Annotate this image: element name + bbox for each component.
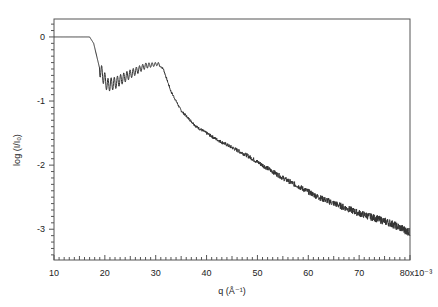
x-tick-label: 70 [354, 268, 364, 278]
y-tick-label: 0 [40, 32, 45, 42]
y-tick-label: -3 [37, 224, 45, 234]
chart: 0-1-2-3 1020304050607080x10⁻³ log (I/I₀)… [0, 0, 438, 307]
y-axis: 0-1-2-3 [37, 24, 54, 255]
x-tick-label: 50 [252, 268, 262, 278]
y-axis-title: log (I/I₀) [12, 134, 22, 166]
x-tick-label: 60 [303, 268, 313, 278]
x-tick-label: 10 [49, 268, 59, 278]
x-axis-title: q (Å⁻¹) [218, 286, 246, 296]
x-tick-label: 40 [202, 268, 212, 278]
x-tick-label: 30 [151, 268, 161, 278]
x-tick-label: 80x10⁻³ [400, 268, 433, 278]
plot-frame [54, 19, 410, 260]
x-axis: 1020304050607080x10⁻³ [49, 255, 432, 278]
y-tick-label: -2 [37, 160, 45, 170]
y-tick-label: -1 [37, 96, 45, 106]
data-series-line [54, 37, 410, 236]
x-tick-label: 20 [100, 268, 110, 278]
